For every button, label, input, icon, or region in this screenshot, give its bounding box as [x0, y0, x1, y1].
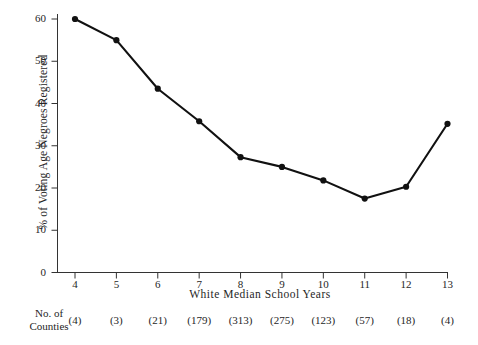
data-point [362, 195, 368, 201]
counties-value: (3) [96, 314, 136, 326]
counties-value: (4) [55, 314, 95, 326]
counties-value: (275) [262, 314, 302, 326]
y-tick-label: 60 [20, 12, 46, 24]
x-tick-label: 11 [352, 278, 378, 290]
data-point [113, 37, 119, 43]
counties-value: (57) [345, 314, 385, 326]
counties-value: (21) [138, 314, 178, 326]
x-axis-ticks [75, 273, 448, 279]
counties-annotation-row: No. of Counties (4)(3)(21)(179)(313)(275… [0, 305, 478, 339]
x-tick-label: 5 [103, 278, 129, 290]
x-tick-label: 13 [435, 278, 461, 290]
data-point [279, 164, 285, 170]
x-tick-label: 12 [393, 278, 419, 290]
x-tick-label: 7 [186, 278, 212, 290]
data-point [155, 86, 161, 92]
x-tick-label: 8 [228, 278, 254, 290]
chart-figure: % of Voting Age Negroes Registered White… [0, 0, 478, 345]
data-point [196, 118, 202, 124]
data-point [320, 177, 326, 183]
y-tick-label: 50 [20, 54, 46, 66]
y-tick-label: 30 [20, 139, 46, 151]
y-tick-label: 10 [20, 223, 46, 235]
y-tick-label: 0 [20, 266, 46, 278]
data-point [72, 16, 78, 22]
data-point [237, 154, 243, 160]
x-tick-label: 4 [62, 278, 88, 290]
counties-value: (18) [386, 314, 426, 326]
data-point [444, 121, 450, 127]
data-point [403, 184, 409, 190]
counties-value: (123) [303, 314, 343, 326]
x-tick-label: 9 [269, 278, 295, 290]
data-point-markers [72, 16, 451, 202]
counties-value: (179) [179, 314, 219, 326]
x-tick-label: 10 [310, 278, 336, 290]
y-tick-label: 40 [20, 97, 46, 109]
counties-value: (313) [221, 314, 261, 326]
y-tick-label: 20 [20, 181, 46, 193]
data-line [75, 19, 448, 199]
y-axis-ticks [52, 19, 58, 273]
counties-value: (4) [428, 314, 468, 326]
x-tick-label: 6 [145, 278, 171, 290]
